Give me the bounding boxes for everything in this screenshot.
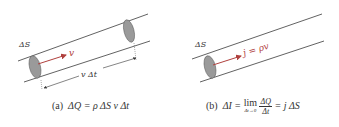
panel-b-tube: ΔS j = ρv — [192, 14, 324, 82]
panel-a-tube: ΔS v v Δt — [18, 14, 150, 90]
label-v: v — [69, 48, 74, 58]
label-dS-b: ΔS — [194, 40, 207, 49]
caption-b-rhs: = j ΔS — [274, 100, 299, 111]
surface-dS — [202, 55, 218, 80]
velocity-arrow-icon — [38, 55, 66, 64]
dimension-line-right — [103, 58, 136, 68]
fraction-numerator: ΔQ — [259, 97, 271, 107]
surface-dS-left — [27, 55, 43, 80]
label-v-dt: v Δt — [81, 70, 98, 79]
dimension-line-left — [44, 76, 79, 88]
caption-b-tag: (b) — [206, 100, 218, 111]
caption-a-tag: (a) — [52, 100, 63, 111]
limit-operator: lim Δt→0 — [244, 99, 257, 115]
caption-a: (a) ΔQ = ρ ΔS v Δt — [52, 100, 129, 111]
label-dS-a: ΔS — [18, 40, 31, 49]
fraction-denominator: Δt — [259, 107, 271, 116]
current-density-arrow-icon — [213, 56, 241, 65]
lim-text: lim — [244, 97, 257, 108]
caption-a-formula: ΔQ = ρ ΔS v Δt — [68, 100, 129, 111]
fraction-dQ-dt: ΔQ Δt — [259, 97, 271, 116]
surface-dS-right — [121, 19, 136, 44]
caption-b-lhs: ΔI = — [223, 100, 241, 111]
dim-tick-left — [41, 80, 42, 90]
lim-subscript: Δt→0 — [244, 107, 257, 115]
label-j-equals-rho-v: j = ρv — [240, 41, 270, 58]
caption-b: (b) ΔI = lim Δt→0 ΔQ Δt = j ΔS — [206, 97, 300, 116]
